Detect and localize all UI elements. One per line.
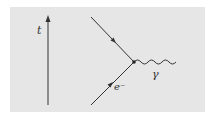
outgoing-electron-line [91,17,134,62]
feynman-diagram: t e⁻ γ [0,0,211,118]
time-axis [46,15,51,105]
photon-label: γ [152,68,159,81]
arrow-icon [108,82,114,88]
time-axis-label: t [37,24,42,37]
arrow-up-icon [46,15,51,22]
incoming-electron-line [91,62,134,105]
electron-label: e⁻ [114,81,125,92]
photon-wavy-line [134,60,176,64]
